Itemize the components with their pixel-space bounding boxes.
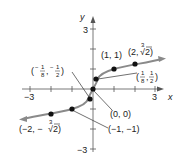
svg-text:(2,: (2, bbox=[128, 47, 139, 57]
y-min-label: −3 bbox=[77, 145, 87, 155]
point-two bbox=[132, 61, 137, 66]
svg-text:−: − bbox=[35, 64, 39, 70]
y-axis-label: y bbox=[79, 12, 85, 22]
label-two: (2, 3 √2) bbox=[128, 42, 153, 57]
x-axis-arrow-icon bbox=[157, 87, 164, 92]
svg-text:): ) bbox=[155, 72, 158, 82]
cube-root-graph: −3 3 x y 3 −3 (1, 1) (2, bbox=[0, 0, 189, 160]
x-min-label: −3 bbox=[24, 92, 34, 102]
label-neg-eighth: ( − 1 8 , − 1 2 ) bbox=[31, 64, 64, 78]
x-max-label: 3 bbox=[152, 92, 157, 102]
label-neg1: (−1, −1) bbox=[108, 124, 140, 134]
y-max-label: 3 bbox=[83, 25, 88, 35]
svg-text:1: 1 bbox=[141, 70, 145, 76]
svg-text:−: − bbox=[50, 64, 54, 70]
label-origin: (0, 0) bbox=[110, 109, 131, 119]
point-neg-eighth bbox=[87, 96, 92, 101]
label-eighth: ( 1 8 , 1 2 ) bbox=[136, 70, 158, 84]
svg-text:1: 1 bbox=[56, 64, 60, 70]
leader-lines bbox=[72, 72, 137, 128]
point-neg1 bbox=[69, 106, 74, 111]
point-eighth bbox=[93, 76, 98, 81]
svg-text:): ) bbox=[61, 66, 64, 76]
svg-text:8: 8 bbox=[41, 72, 45, 78]
svg-text:,: , bbox=[146, 72, 149, 82]
curve-left-arrow-icon bbox=[19, 116, 27, 122]
label-one: (1, 1) bbox=[101, 50, 122, 60]
x-axis-label: x bbox=[167, 92, 173, 102]
point-origin bbox=[90, 86, 95, 91]
curve-right-arrow-icon bbox=[158, 56, 166, 62]
svg-text:,: , bbox=[46, 66, 49, 76]
svg-text:(: ( bbox=[136, 72, 139, 82]
svg-text:(−2, −: (−2, − bbox=[19, 124, 43, 134]
svg-text:√2): √2) bbox=[140, 47, 153, 57]
point-one bbox=[111, 66, 116, 71]
svg-text:√2): √2) bbox=[48, 124, 61, 134]
x-axis: −3 3 x bbox=[22, 86, 173, 102]
point-neg2 bbox=[48, 111, 53, 116]
y-axis-arrow-icon bbox=[91, 16, 96, 23]
svg-text:2: 2 bbox=[150, 78, 154, 84]
svg-text:(: ( bbox=[31, 66, 34, 76]
svg-text:1: 1 bbox=[41, 64, 45, 70]
svg-text:8: 8 bbox=[141, 78, 145, 84]
svg-text:1: 1 bbox=[150, 70, 154, 76]
svg-text:2: 2 bbox=[56, 72, 60, 78]
